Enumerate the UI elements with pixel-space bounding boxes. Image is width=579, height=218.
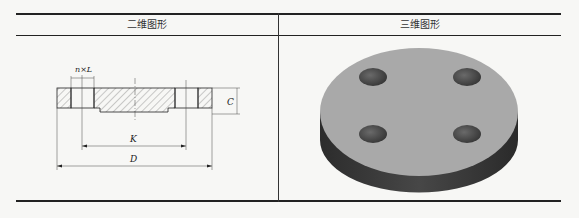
flange-3d-render [300,40,540,200]
label-c: C [227,97,234,107]
bolt-hole [359,125,387,143]
flange-2d-drawing: n×L C K D [40,50,260,190]
header-2d: 二维图形 [16,14,278,35]
column-divider [278,13,279,202]
header-3d: 三维图形 [279,14,561,35]
label-d: D [129,154,137,164]
label-nxl: n×L [75,65,92,74]
label-k: K [129,134,138,144]
table-header-rule [16,35,561,36]
bolt-hole [453,125,481,143]
table-bottom-rule [16,200,561,202]
bolt-hole [453,68,481,86]
bolt-hole [359,68,387,86]
